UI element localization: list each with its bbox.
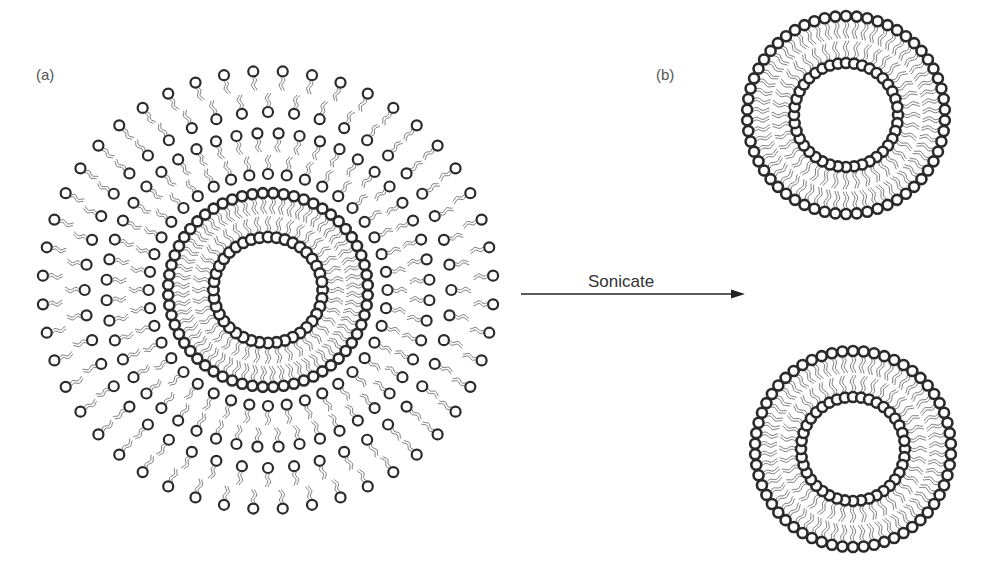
lipid-head-icon [61, 382, 71, 392]
lipid-head-icon [191, 144, 201, 154]
lipid-tail-icon [49, 300, 62, 303]
lipid-tail-icon [258, 428, 261, 441]
lipid-tail-icon [265, 474, 268, 487]
lipid-tail-icon [922, 101, 938, 105]
lipid-head-icon [163, 280, 173, 290]
lipid-tail-icon [347, 405, 356, 415]
lipid-head-icon [382, 285, 392, 295]
lipid-head-icon [191, 426, 201, 436]
lipid-tail-icon [222, 406, 227, 418]
lipid-tail-icon [268, 155, 271, 168]
lipid-tail-icon [753, 110, 769, 113]
lipid-head-icon [416, 235, 426, 245]
lipid-head-icon [416, 335, 426, 345]
lipid-tail-icon [901, 482, 913, 492]
lipid-tail-icon [412, 409, 421, 418]
lipid-head-icon [339, 447, 349, 457]
lipid-head-icon [424, 295, 434, 305]
lipid-head-icon [830, 208, 840, 218]
lipid-head-icon [402, 402, 412, 412]
lipid-tail-icon [778, 492, 790, 502]
lipid-head-icon [383, 420, 393, 430]
lipid-tail-icon [268, 349, 271, 364]
lipid-head-icon [307, 70, 317, 80]
lipid-tail-icon [917, 79, 932, 86]
lipid-head-icon [87, 335, 97, 345]
lipid-head-icon [939, 94, 949, 104]
lipid-head-icon [852, 12, 862, 22]
lipid-head-icon [936, 84, 946, 94]
lipid-tail-icon [423, 149, 432, 159]
lipid-head-icon [388, 467, 398, 477]
lipid-head-icon [362, 270, 372, 280]
lipid-tail-icon [275, 139, 278, 152]
lipid-head-icon [936, 136, 946, 146]
lipid-tail-icon [265, 216, 268, 231]
lipid-tail-icon [343, 311, 358, 315]
lipid-head-icon [317, 388, 327, 398]
lipid-tail-icon [899, 510, 910, 522]
lipid-head-icon [333, 191, 343, 201]
lipid-head-icon [231, 131, 241, 141]
unilamellar-vesicles [742, 11, 956, 552]
lipid-tail-icon [804, 371, 813, 384]
lipid-head-icon [946, 449, 956, 459]
lipid-tail-icon [370, 361, 380, 370]
lipid-tail-icon [765, 423, 781, 427]
lipid-tail-icon [885, 518, 893, 532]
bilayer-2 [102, 128, 435, 451]
lipid-tail-icon [263, 366, 266, 381]
lipid-head-icon [841, 209, 851, 219]
lipid-head-icon [408, 354, 418, 364]
lipid-head-icon [754, 156, 764, 166]
lipid-tail-icon [450, 236, 463, 240]
lipid-tail-icon [786, 71, 798, 82]
lipid-head-icon [859, 347, 869, 357]
lipid-tail-icon [392, 267, 405, 270]
lipid-head-icon [124, 402, 134, 412]
lipid-tail-icon [843, 41, 846, 57]
lipid-head-icon [827, 540, 837, 550]
lipid-tail-icon [178, 265, 193, 269]
lipid-head-icon [129, 372, 139, 382]
lipid-tail-icon [824, 189, 828, 205]
lipid-tail-icon [195, 307, 210, 311]
lipid-head-icon [879, 537, 889, 547]
lipid-tail-icon [410, 281, 423, 284]
lipid-tail-icon [72, 379, 83, 386]
lipid-head-icon [87, 235, 97, 245]
lipid-head-icon [848, 542, 858, 552]
lipid-head-icon [211, 434, 221, 444]
lipid-tail-icon [762, 459, 777, 463]
lipid-head-icon [295, 439, 305, 449]
lipid-head-icon [754, 470, 764, 480]
lipid-head-icon [164, 435, 174, 445]
lipid-tail-icon [871, 49, 880, 63]
lipid-head-icon [430, 211, 440, 221]
lipid-head-icon [307, 500, 317, 510]
lipid-tail-icon [254, 490, 257, 503]
lipid-tail-icon [753, 119, 769, 122]
lipid-head-icon [353, 154, 363, 164]
lipid-tail-icon [224, 210, 232, 223]
lipid-tail-icon [49, 276, 62, 279]
lipid-head-icon [946, 439, 956, 449]
lipid-head-icon [412, 120, 422, 130]
lipid-head-icon [363, 481, 373, 491]
lipid-head-icon [289, 461, 299, 471]
bilayer-3 [38, 66, 498, 513]
lipid-tail-icon [346, 292, 361, 295]
lipid-tail-icon [308, 162, 313, 174]
lipid-head-icon [282, 400, 292, 410]
lipid-tail-icon [305, 406, 309, 419]
lipid-head-icon [369, 338, 379, 348]
lipid-tail-icon [761, 444, 777, 447]
lipid-head-icon [363, 290, 373, 300]
lipid-tail-icon [914, 70, 928, 79]
lipid-tail-icon [253, 348, 257, 362]
lipid-tail-icon [104, 422, 113, 432]
lipid-tail-icon [757, 88, 773, 92]
lipid-head-icon [118, 216, 128, 226]
lipid-tail-icon [852, 192, 855, 208]
lipid-head-icon [263, 401, 273, 411]
